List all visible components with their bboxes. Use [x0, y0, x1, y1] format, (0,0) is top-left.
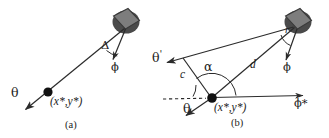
caption-b: (b) — [231, 118, 243, 129]
label-phi-b: ϕ — [283, 62, 291, 74]
label-theta-prime-mark: ' — [160, 48, 163, 59]
label-theta-b: θ — [183, 103, 191, 116]
label-position-a: (x*,y*) — [50, 96, 82, 108]
r-arc-b — [281, 35, 291, 46]
label-theta-a: θ — [11, 87, 19, 100]
label-r-b: r — [285, 25, 289, 36]
label-phi-star-b: ϕ* — [294, 98, 308, 110]
label-position-b: (x*,y*) — [214, 102, 246, 114]
label-c-b: c — [180, 69, 185, 81]
phi-star-axis-b — [213, 96, 304, 98]
panel-a-graphics — [26, 9, 140, 110]
label-d-b: d — [250, 59, 256, 71]
figure-svg — [0, 0, 329, 138]
label-delta-a: Δ — [101, 40, 109, 52]
theta-prime-arc-b — [193, 85, 196, 97]
caption-a: (a) — [65, 120, 77, 131]
reference-dashed-line-b — [163, 98, 206, 99]
figure-container: θ ϕ Δ (x*,y*) (a) θ' c α d r ϕ θ ϕ* (x*,… — [0, 0, 329, 138]
label-theta-prime-b: θ' — [152, 49, 162, 65]
label-theta-prime-glyph: θ — [152, 50, 160, 65]
label-phi-a: ϕ — [111, 62, 119, 74]
label-alpha-b: α — [204, 61, 212, 74]
